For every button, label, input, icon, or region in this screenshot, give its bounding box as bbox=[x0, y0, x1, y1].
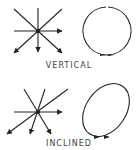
caption-vertical: VERTICAL bbox=[0, 61, 138, 70]
caption-inclined: INCLINED bbox=[0, 139, 138, 148]
polarization-diagram bbox=[0, 0, 138, 150]
inclined-star-icon bbox=[7, 89, 68, 134]
elliptical-orbit-icon bbox=[73, 75, 138, 145]
vertical-star-icon bbox=[14, 8, 62, 53]
circular-orbit-icon bbox=[83, 7, 131, 56]
